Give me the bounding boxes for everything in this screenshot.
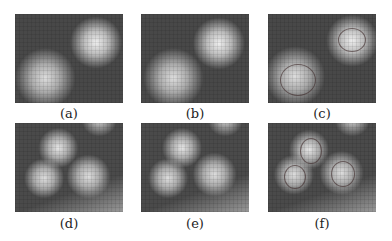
grid-overlay — [15, 14, 123, 103]
caption-c: (c) — [268, 106, 376, 121]
caption-b: (b) — [141, 106, 249, 121]
grid-overlay — [268, 123, 376, 212]
caption-d: (d) — [15, 216, 123, 231]
panel-c — [268, 14, 376, 103]
panel-e — [141, 123, 249, 212]
panel-d — [15, 123, 123, 212]
panel-a — [15, 14, 123, 103]
caption-e: (e) — [141, 216, 249, 231]
contour-ring — [280, 64, 316, 96]
panel-f — [268, 123, 376, 212]
caption-f: (f) — [268, 216, 376, 231]
contour-ring — [300, 138, 322, 164]
contour-ring — [284, 165, 306, 189]
grid-overlay — [141, 14, 249, 103]
grid-overlay — [141, 123, 249, 212]
panel-b — [141, 14, 249, 103]
contour-ring — [331, 161, 355, 187]
caption-a: (a) — [15, 106, 123, 121]
contour-ring — [338, 28, 366, 52]
grid-overlay — [15, 123, 123, 212]
